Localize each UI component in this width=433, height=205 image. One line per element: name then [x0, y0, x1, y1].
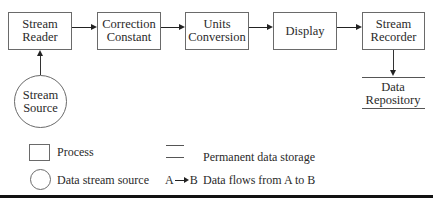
legend-storage-top-line — [166, 145, 184, 146]
legend-flow-symbol: A B — [165, 173, 198, 188]
legend-source-symbol — [30, 169, 51, 190]
node-stream-source: StreamSource — [14, 75, 67, 128]
arrow-right-icon — [175, 180, 187, 181]
storage-bottom-line — [362, 108, 425, 109]
bottom-rule — [0, 195, 433, 198]
node-label: Data — [381, 80, 405, 94]
arrow-down-icon — [390, 70, 396, 76]
node-label: Stream — [376, 17, 411, 31]
node-label: Recorder — [371, 30, 417, 44]
legend-flow-label: Data flows from A to B — [203, 173, 315, 188]
node-data-repository: DataRepository — [358, 81, 428, 107]
node-label: Stream — [23, 88, 58, 102]
flow-arrow-line — [161, 27, 179, 28]
node-stream-recorder: StreamRecorder — [362, 12, 425, 50]
node-display: Display — [273, 12, 337, 50]
arrow-right-icon — [179, 24, 185, 30]
legend-process-symbol — [29, 144, 50, 161]
arrow-right-icon — [356, 24, 362, 30]
flow-arrow-line — [393, 50, 394, 70]
node-units-conversion: UnitsConversion — [185, 12, 249, 50]
node-label: Correction — [102, 17, 155, 31]
flow-arrow-line — [72, 27, 91, 28]
flow-arrow-line — [337, 27, 356, 28]
legend-storage-bottom-line — [166, 157, 184, 158]
arrow-right-icon — [91, 24, 97, 30]
storage-top-line — [362, 77, 425, 78]
node-label: Stream — [22, 17, 57, 31]
node-label: Constant — [107, 30, 151, 44]
legend-source-label: Data stream source — [57, 173, 149, 188]
node-label: Reader — [22, 30, 57, 44]
arrow-up-icon — [37, 50, 43, 56]
node-label: Source — [23, 101, 58, 115]
node-label: Units — [203, 17, 230, 31]
node-correction-constant: CorrectionConstant — [97, 12, 161, 50]
legend-process-label: Process — [57, 145, 94, 160]
arrow-right-icon — [267, 24, 273, 30]
legend-flow-b: B — [190, 173, 198, 188]
node-label: Conversion — [188, 30, 246, 44]
legend-storage-label: Permanent data storage — [203, 150, 315, 165]
legend-flow-a: A — [165, 173, 174, 188]
flow-arrow-line — [249, 27, 267, 28]
node-label: Display — [286, 25, 325, 38]
node-stream-reader: StreamReader — [8, 12, 72, 50]
flow-arrow-line — [40, 56, 41, 75]
node-label: Repository — [366, 93, 421, 107]
